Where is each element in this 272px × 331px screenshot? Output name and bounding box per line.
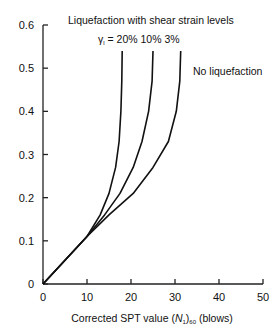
x-tick-label: 40 [213, 291, 225, 303]
x-tick-label: 0 [40, 291, 46, 303]
x-tick-label: 10 [81, 291, 93, 303]
y-tick-label: 0.5 [19, 62, 34, 74]
y-tick-label: 0 [28, 278, 34, 290]
x-tick-label: 50 [257, 291, 269, 303]
x-tick-label: 20 [125, 291, 137, 303]
chart: 00.10.20.30.40.50.601020304050Liquefacti… [0, 0, 272, 331]
y-tick-label: 0.3 [19, 149, 34, 161]
y-tick-label: 0.1 [19, 235, 34, 247]
strain-labels: γl = 20% 10% 3% [98, 33, 180, 46]
y-tick-label: 0.4 [19, 105, 34, 117]
strain-curve [43, 51, 153, 284]
x-tick-label: 30 [169, 291, 181, 303]
strain-curve [43, 51, 122, 284]
x-axis-title: Corrected SPT value (N1)60 (blows) [71, 312, 233, 325]
no-liquefaction-label: No liquefaction [193, 65, 263, 77]
y-tick-label: 0.2 [19, 192, 34, 204]
strain-curve [43, 51, 181, 284]
y-tick-label: 0.6 [19, 19, 34, 31]
chart-title-text: Liquefaction with shear strain levels [68, 14, 234, 26]
